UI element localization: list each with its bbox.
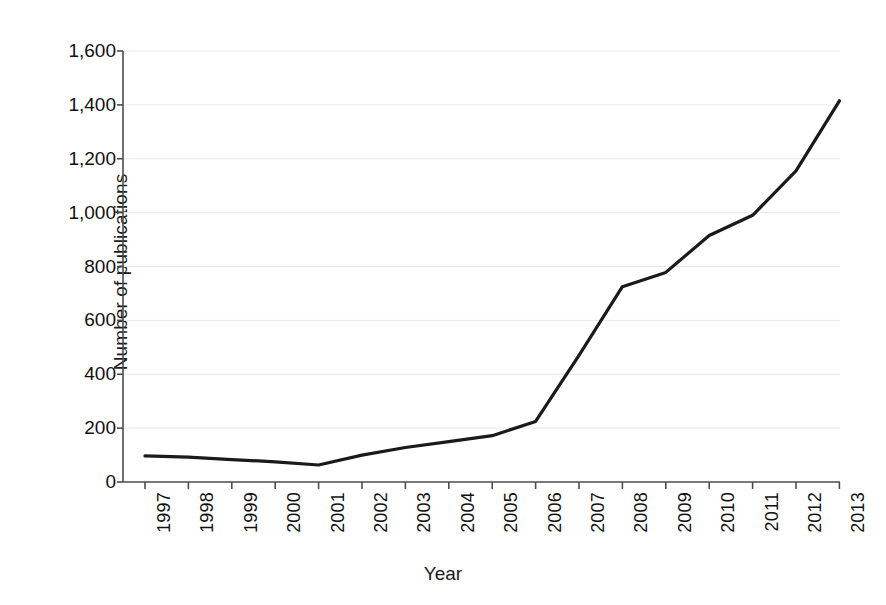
data-line-series [145,101,839,465]
gridlines [123,51,840,428]
plot-area [0,0,886,605]
publications-line-chart: Number of publications 02004006008001,00… [0,0,886,605]
x-axis-title: Year [0,563,886,585]
axis-ticks [117,51,839,489]
